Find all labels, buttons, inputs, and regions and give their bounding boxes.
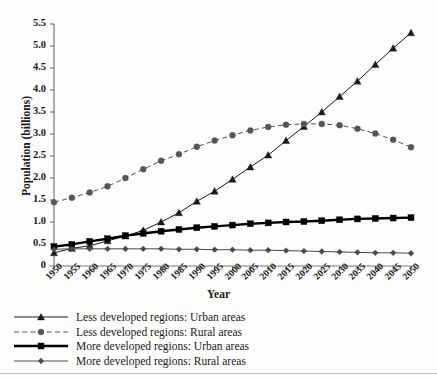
legend-marker-icon: [10, 325, 72, 339]
legend-item[interactable]: Less developed regions: Rural areas: [10, 325, 430, 340]
y-tick-label: 1.0: [16, 215, 46, 226]
population-line-chart: Population (billions) Year 00.51.01.52.0…: [0, 0, 437, 300]
y-tick-label: 0: [16, 259, 46, 270]
y-tick-label: 3.0: [16, 127, 46, 138]
y-tick-label: 5.5: [16, 17, 46, 28]
y-tick-label: 4.5: [16, 61, 46, 72]
legend-item-label: More developed regions: Urban areas: [76, 340, 249, 352]
legend-item[interactable]: Less developed regions: Urban areas: [10, 310, 430, 325]
chart-legend: Less developed regions: Urban areasLess …: [10, 310, 430, 368]
chart-page: Population (billions) Year 00.51.01.52.0…: [0, 0, 437, 378]
legend-marker-icon: [10, 354, 72, 368]
axes: [50, 24, 415, 271]
y-tick-label: 3.5: [16, 105, 46, 116]
legend-item[interactable]: More developed regions: Urban areas: [10, 339, 430, 354]
series-line-3: [51, 246, 414, 256]
y-tick-label: 5.0: [16, 39, 46, 50]
plot-canvas: [0, 0, 437, 300]
data-series: [50, 29, 414, 256]
y-tick-label: 1.5: [16, 193, 46, 204]
y-tick-label: 0.5: [16, 237, 46, 248]
legend-item-label: Less developed regions: Urban areas: [76, 311, 245, 323]
x-axis-title: Year: [0, 288, 437, 300]
y-tick-label: 2.0: [16, 171, 46, 182]
series-line-1: [51, 121, 414, 205]
legend-marker-icon: [10, 310, 72, 324]
y-tick-label: 2.5: [16, 149, 46, 160]
series-line-2: [51, 215, 414, 250]
legend-item[interactable]: More developed regions: Rural areas: [10, 354, 430, 369]
legend-item-label: More developed regions: Rural areas: [76, 355, 246, 367]
legend-item-label: Less developed regions: Rural areas: [76, 326, 242, 338]
legend-marker-icon: [10, 339, 72, 353]
y-tick-label: 4.0: [16, 83, 46, 94]
bottom-divider: [0, 373, 437, 374]
